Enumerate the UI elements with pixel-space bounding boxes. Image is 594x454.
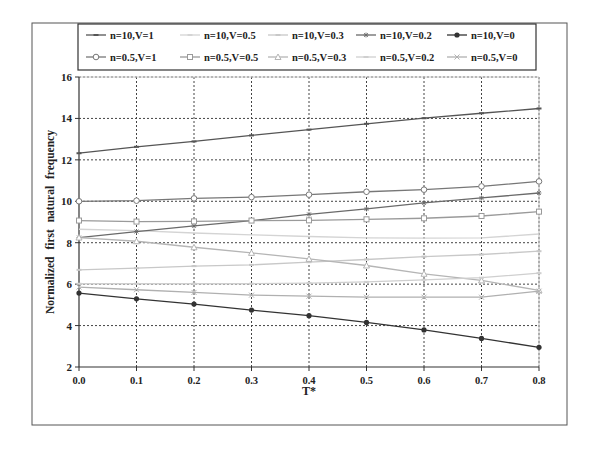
- data-point-marker: [76, 198, 82, 204]
- data-point-marker: [536, 345, 541, 350]
- y-tick-label: 2: [67, 361, 73, 373]
- data-point-marker: [306, 192, 312, 198]
- data-point-marker: [249, 194, 255, 200]
- legend-label: n=10,V=1: [110, 30, 154, 41]
- x-axis-label: T*: [302, 384, 316, 398]
- data-point-marker: [192, 219, 197, 224]
- data-point-marker: [307, 218, 312, 223]
- data-point-marker: [76, 290, 81, 295]
- data-point-marker: [134, 229, 139, 234]
- data-point-marker: [364, 33, 369, 38]
- data-point-marker: [536, 179, 542, 185]
- data-point-marker: [134, 198, 140, 204]
- data-point-marker: [454, 32, 459, 37]
- y-tick-label: 10: [61, 195, 73, 207]
- y-tick-label: 12: [61, 154, 73, 166]
- data-point-marker: [364, 217, 369, 222]
- legend-label: n=0.5,V=0.3: [292, 52, 346, 63]
- data-point-marker: [537, 209, 542, 214]
- data-point-marker: [421, 327, 426, 332]
- x-tick-label: 0.2: [187, 375, 200, 386]
- chart-canvas: 2468101214160.00.10.20.30.40.50.60.70.8 …: [0, 0, 594, 454]
- legend-label: n=0.5,V=0.2: [380, 52, 434, 63]
- legend-label: n=0.5,V=0.5: [204, 52, 258, 63]
- data-point-marker: [479, 336, 484, 341]
- x-tick-label: 0.5: [360, 375, 373, 386]
- legend-label: n=10,V=0.5: [204, 30, 256, 41]
- data-point-marker: [134, 296, 139, 301]
- data-point-marker: [134, 219, 139, 224]
- data-point-marker: [249, 307, 254, 312]
- y-tick-label: 8: [67, 237, 73, 249]
- data-point-marker: [191, 196, 197, 202]
- x-tick-label: 0.1: [130, 375, 143, 386]
- data-point-marker: [191, 301, 196, 306]
- y-tick-label: 14: [61, 112, 73, 124]
- x-tick-label: 0.6: [417, 375, 430, 386]
- data-point-marker: [77, 218, 82, 223]
- data-point-marker: [306, 313, 311, 318]
- x-tick-label: 0.8: [532, 375, 545, 386]
- data-point-marker: [479, 195, 484, 200]
- data-point-marker: [537, 191, 542, 196]
- legend-label: n=10,V=0.3: [292, 30, 344, 41]
- x-tick-label: 0.7: [475, 375, 488, 386]
- chart-figure: 2468101214160.00.10.20.30.40.50.60.70.8 …: [0, 0, 594, 454]
- data-point-marker: [364, 206, 369, 211]
- data-point-marker: [93, 54, 99, 60]
- data-point-marker: [249, 218, 254, 223]
- x-tick-label: 0.3: [245, 375, 258, 386]
- data-point-marker: [364, 320, 369, 325]
- data-point-marker: [421, 187, 427, 193]
- outer-frame: [32, 23, 567, 425]
- y-axis-label: Normalized first natural frequency: [44, 130, 57, 314]
- y-tick-label: 6: [67, 278, 73, 290]
- legend-label: n=0.5,V=0: [471, 52, 517, 63]
- data-point-marker: [479, 184, 485, 190]
- y-tick-label: 16: [61, 71, 73, 83]
- y-tick-label: 4: [67, 320, 73, 332]
- legend-label: n=0.5,V=1: [110, 52, 156, 63]
- legend-label: n=10,V=0.2: [380, 30, 432, 41]
- data-point-marker: [188, 55, 193, 60]
- data-point-marker: [422, 216, 427, 221]
- data-point-marker: [307, 212, 312, 217]
- data-point-marker: [364, 189, 370, 195]
- data-point-marker: [479, 213, 484, 218]
- data-point-marker: [422, 200, 427, 205]
- legend-label: n=10,V=0: [471, 30, 515, 41]
- x-tick-label: 0.0: [72, 375, 85, 386]
